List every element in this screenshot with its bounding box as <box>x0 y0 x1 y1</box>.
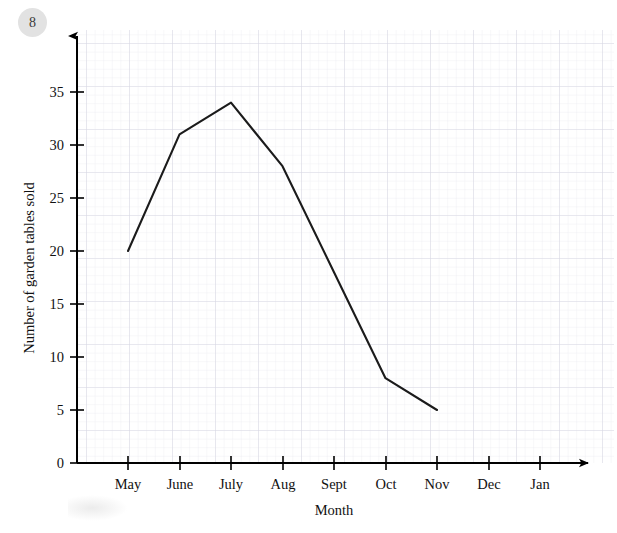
y-tick-label-20: 20 <box>50 243 65 259</box>
y-axis-title: Number of garden tables sold <box>21 181 37 353</box>
x-tick-label-july: July <box>219 476 244 492</box>
chart-gridlines <box>77 30 614 463</box>
x-tick-label-oct: Oct <box>376 476 397 492</box>
x-tick-label-aug: Aug <box>271 476 296 492</box>
x-tick-label-june: June <box>167 476 194 492</box>
x-tick-label-nov: Nov <box>425 476 451 492</box>
y-tick-label-35: 35 <box>50 84 65 100</box>
y-tick-label-10: 10 <box>50 349 65 365</box>
y-tick-label-5: 5 <box>57 402 64 418</box>
x-tick-label-sept: Sept <box>321 476 347 492</box>
x-axis-title: Month <box>315 502 354 518</box>
y-tick-label-30: 30 <box>50 137 65 153</box>
y-tick-label-0: 0 <box>57 455 64 471</box>
y-tick-label-25: 25 <box>50 190 65 206</box>
x-tick-label-dec: Dec <box>477 476 500 492</box>
worksheet-page: 8 <box>0 0 617 533</box>
x-tick-label-may: May <box>115 476 142 492</box>
line-chart: 0 5 10 15 20 25 30 35 Number of garden t… <box>0 0 617 533</box>
y-axis: 0 5 10 15 20 25 30 35 Number of garden t… <box>21 36 84 471</box>
y-tick-label-15: 15 <box>50 296 65 312</box>
x-axis: May June July Aug Sept Oct Nov Dec Jan M… <box>77 456 588 518</box>
x-tick-label-jan: Jan <box>530 476 550 492</box>
